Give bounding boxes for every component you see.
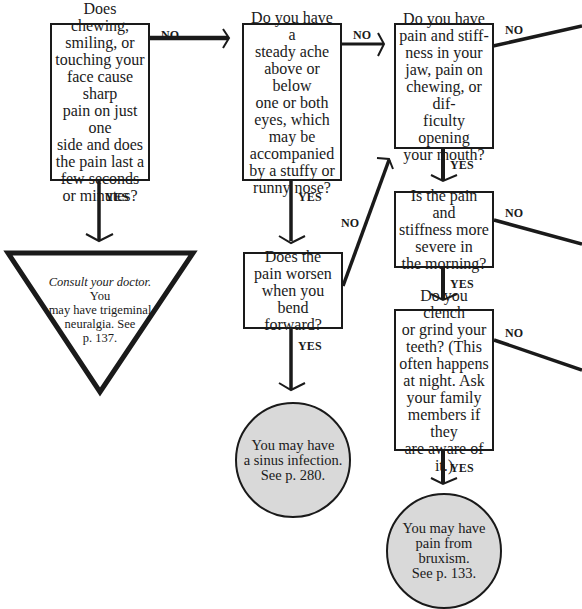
yes-label-q4: YES: [298, 339, 322, 354]
question-box-morning-stiffness: Is the pain and stiffness more severe in…: [394, 191, 494, 268]
question-box-clench-grind: Do you clench or grind your teeth? (This…: [394, 309, 494, 451]
no-label-q2: NO: [353, 28, 371, 43]
urgent-outcome-text: Consult your doctor. You may have trigem…: [38, 275, 162, 345]
outcome-bruxism: You may have pain from bruxism. See p. 1…: [386, 493, 502, 609]
outcome-sinus-infection: You may have a sinus infection. See p. 2…: [235, 402, 351, 518]
trigeminal-neuralgia-text: You may have trigeminal neuralgia. See p…: [49, 289, 152, 345]
question-box-steady-ache: Do you have a steady ache above or below…: [242, 23, 342, 181]
question-box-jaw-stiffness: Do you have pain and stiff- ness in your…: [394, 23, 494, 149]
consult-doctor-text: Consult your doctor.: [49, 275, 151, 289]
no-label-q4: NO: [341, 216, 359, 231]
question-box-sharp-pain: Does chewing, smiling, or touching your …: [50, 23, 150, 181]
question-box-bend-forward: Does the pain worsen when you bend forwa…: [243, 252, 343, 329]
no-label-q6: NO: [505, 326, 523, 341]
no-label-q5: NO: [505, 206, 523, 221]
no-label-q3: NO: [505, 23, 523, 38]
no-label-q1: NO: [161, 28, 179, 43]
